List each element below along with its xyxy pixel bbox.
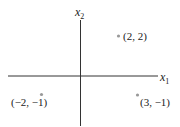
point-3-neg1 bbox=[136, 93, 139, 96]
x-axis-label: x1 bbox=[159, 70, 169, 86]
point-label-3-neg1: (3, −1) bbox=[140, 96, 170, 109]
point-2-2 bbox=[117, 34, 120, 37]
y-axis-label: x2 bbox=[74, 5, 84, 21]
point-label-neg2-neg1: (−2, −1) bbox=[11, 96, 48, 109]
coordinate-diagram: x1 x2 (2, 2) (−2, −1) (3, −1) bbox=[0, 0, 180, 127]
point-label-2-2: (2, 2) bbox=[123, 30, 147, 43]
